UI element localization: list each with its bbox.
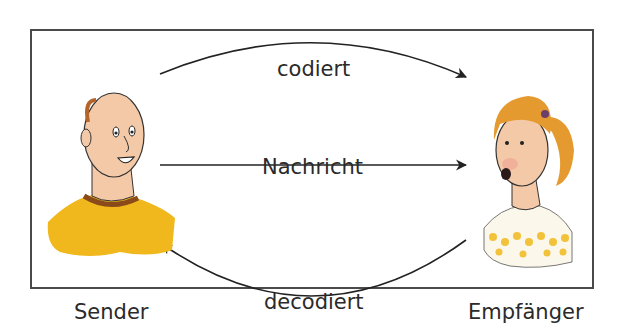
empfaenger-label: Empfänger bbox=[468, 302, 584, 323]
sender-illustration bbox=[48, 93, 175, 256]
decodiert-label: decodiert bbox=[264, 292, 364, 313]
nachricht-label: Nachricht bbox=[262, 157, 363, 178]
codiert-label: codiert bbox=[277, 59, 350, 80]
decodiert-arrow bbox=[162, 240, 466, 296]
sender-label: Sender bbox=[74, 302, 148, 323]
empfaenger-illustration bbox=[484, 96, 574, 267]
